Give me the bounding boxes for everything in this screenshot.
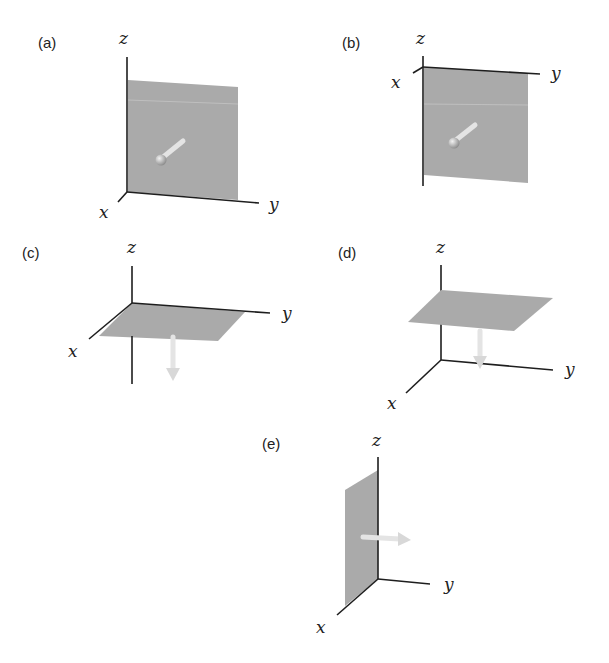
x-label-b: x: [391, 72, 401, 92]
panel-a-label: (a): [38, 34, 56, 51]
figure-canvas: (a) z x y (b) z x y (c) z x y: [0, 0, 609, 663]
z-label-a: z: [118, 28, 129, 48]
panel-e-label: (e): [262, 435, 280, 452]
x-axis-b: [413, 67, 423, 73]
x-label-e: x: [316, 617, 326, 637]
panel-a: (a) z x y: [38, 28, 279, 222]
y-axis-e: [378, 579, 430, 584]
y-label-a: y: [268, 194, 279, 214]
plane-d: [408, 290, 553, 331]
x-label-c: x: [68, 341, 78, 361]
arrow-base-ball-a: [156, 155, 167, 166]
normal-arrow-e: [363, 537, 400, 539]
panel-c-label: (c): [22, 244, 40, 261]
panel-d-label: (d): [338, 244, 356, 261]
arrowhead-e: [398, 532, 411, 546]
y-label-b: y: [550, 63, 561, 83]
panel-e: (e) z x y: [262, 430, 454, 637]
y-label-e: y: [443, 574, 454, 594]
z-label-d: z: [435, 237, 446, 257]
y-label-d: y: [564, 359, 575, 379]
x-label-d: x: [387, 393, 397, 413]
z-label-e: z: [371, 430, 382, 450]
y-label-c: y: [281, 303, 292, 323]
arrow-base-ball-b: [449, 138, 460, 149]
x-label-a: x: [99, 202, 109, 222]
z-label-c: z: [126, 237, 137, 257]
y-axis-d: [441, 360, 553, 370]
panel-b: (b) z x y: [342, 28, 561, 186]
x-axis-a: [118, 192, 127, 202]
x-axis-d: [406, 360, 441, 393]
panel-d: (d) z x y: [338, 237, 575, 413]
panel-c: (c) z x y: [22, 237, 292, 384]
arrowhead-c: [166, 368, 180, 381]
panel-b-label: (b): [342, 34, 360, 51]
z-label-b: z: [415, 28, 426, 48]
